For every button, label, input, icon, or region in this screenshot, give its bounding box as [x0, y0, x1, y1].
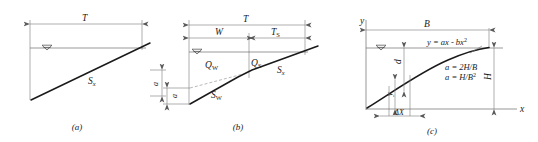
panel-a-depth-label: a	[151, 82, 160, 86]
panel-c-coefficient-a-label: a = 2H/B	[445, 62, 477, 72]
panel-b-section-flow-label: QS	[251, 58, 262, 69]
figure-container: T Sx a (a)	[0, 0, 538, 142]
panel-c-x-axis-label: x	[519, 104, 525, 114]
panel-c-equation-label: y = ax - bx2	[426, 37, 467, 47]
panel-c-width-label: B	[424, 19, 430, 29]
panel-b-water-surface-symbol	[192, 49, 202, 54]
panel-b-gutter-width-label: W	[215, 27, 224, 37]
panel-c-height-label: H	[483, 72, 493, 81]
panel-c-depth-y-label: y	[385, 92, 394, 97]
panel-b-caption: (b)	[233, 122, 244, 132]
panel-c-delta-x-label: ΔX	[393, 108, 405, 117]
panel-c-water-surface-symbol	[376, 45, 386, 50]
panel-b-channel-profile	[190, 46, 318, 104]
figure-svg: T Sx a (a)	[0, 0, 538, 142]
panel-a-spread-label: T	[82, 13, 88, 23]
panel-b-projection-dashed-line	[190, 74, 243, 88]
panel-c-coefficient-b-label: a = H/B2	[445, 72, 476, 82]
panel-b: T W TS QW QS	[163, 14, 318, 132]
panel-a-cross-slope-line	[31, 43, 150, 100]
panel-b-spread-label: T	[243, 14, 249, 24]
panel-b-cross-slope-label: Sx	[277, 65, 285, 76]
panel-a: T Sx a (a)	[30, 13, 166, 132]
panel-a-cross-slope-label: Sx	[88, 76, 96, 87]
panel-a-caption: (a)	[72, 122, 83, 132]
panel-a-water-surface-symbol	[42, 45, 52, 50]
panel-c-y-axis-label: y	[359, 16, 365, 26]
panel-c-depth-d-label: d	[393, 59, 403, 64]
panel-c-caption: (c)	[427, 126, 437, 136]
panel-c: y x B y = ax - bx2 a = 2	[359, 16, 525, 136]
panel-b-spread-section-label: TS	[271, 27, 280, 38]
panel-b-depth-label: a	[170, 94, 179, 98]
panel-b-gutter-slope-label: SW	[211, 90, 223, 101]
panel-b-gutter-flow-label: QW	[205, 60, 219, 71]
